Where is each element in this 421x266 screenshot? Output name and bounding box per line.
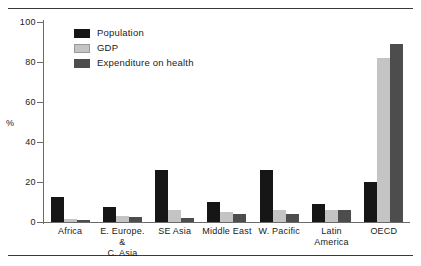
bar-gdp[interactable] [377,58,390,222]
bar-health[interactable] [77,220,90,222]
x-axis-line [43,222,410,223]
bar-population[interactable] [51,197,64,222]
bar-group [103,22,142,222]
x-axis-category-labels: AfricaE. Europe. &C. AsiaSE AsiaMiddle E… [44,226,410,254]
y-axis-tick-label: 60 [2,98,36,107]
bar-population[interactable] [103,207,116,222]
bar-groups [44,22,410,222]
bar-group [364,22,403,222]
x-axis-label: Africa [44,226,96,254]
bar-group [312,22,351,222]
figure-container: 100806040200 % PopulationGDPExpenditure … [0,0,421,266]
bar-health[interactable] [181,218,194,222]
y-axis-tick-label: 0 [2,218,36,227]
x-axis-label: E. Europe. &C. Asia [96,226,148,254]
bar-gdp[interactable] [325,210,338,222]
y-axis-tick [37,142,43,143]
bar-health[interactable] [233,214,246,222]
y-axis-tick [37,22,43,23]
bar-gdp[interactable] [220,212,233,222]
y-axis-title: % [6,119,14,128]
bar-group [155,22,194,222]
figure-bottom-rule [8,255,413,256]
bar-population[interactable] [207,202,220,222]
y-axis-tick-labels: 100806040200 [0,0,36,266]
x-axis-label: LatinAmerica [305,226,357,254]
bar-group [260,22,299,222]
x-axis-label: OECD [358,226,410,254]
bar-gdp[interactable] [273,210,286,222]
x-axis-label: W. Pacific [253,226,305,254]
bar-population[interactable] [312,204,325,222]
bar-health[interactable] [390,44,403,222]
y-axis-tick-label: 20 [2,178,36,187]
bar-health[interactable] [338,210,351,222]
bar-group [207,22,246,222]
x-axis-label: Middle East [201,226,253,254]
y-axis-tick-label: 40 [2,138,36,147]
bar-population[interactable] [260,170,273,222]
bar-gdp[interactable] [116,216,129,222]
x-axis-label: SE Asia [149,226,201,254]
y-axis-tick [37,222,43,223]
y-axis-tick [37,62,43,63]
bar-gdp[interactable] [64,219,77,222]
y-axis-tick [37,182,43,183]
bar-group [51,22,90,222]
y-axis-tick [37,102,43,103]
bar-population[interactable] [155,170,168,222]
bar-gdp[interactable] [168,210,181,222]
bar-health[interactable] [129,217,142,222]
figure-top-rule [8,8,413,9]
bar-population[interactable] [364,182,377,222]
y-axis-tick-label: 80 [2,58,36,67]
y-axis-tick-label: 100 [2,18,36,27]
bar-health[interactable] [286,214,299,222]
